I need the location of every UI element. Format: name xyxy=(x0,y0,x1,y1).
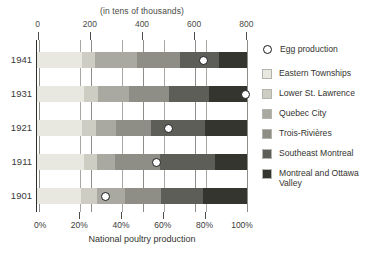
chart-legend: Egg production Eastern TownshipsLower St… xyxy=(262,44,380,198)
legend-item: Trois-Rivières xyxy=(262,128,380,139)
bar-row xyxy=(37,154,247,170)
egg-production-marker xyxy=(241,90,250,99)
bar-segment xyxy=(84,86,98,102)
stacked-bar xyxy=(37,188,247,204)
bar-segment xyxy=(82,120,96,136)
bar-segment xyxy=(37,52,82,68)
bar-segment xyxy=(151,120,205,136)
gridline-absolute xyxy=(247,40,248,212)
legend-label: Lower St. Lawrence xyxy=(279,88,355,99)
bottom-axis-tick-label: 20% xyxy=(71,220,88,230)
legend-label: Southeast Montreal xyxy=(279,148,354,159)
bottom-axis-tick xyxy=(121,212,122,219)
legend-item: Southeast Montreal xyxy=(262,148,380,159)
bar-segment xyxy=(37,86,84,102)
stacked-bar xyxy=(37,86,247,102)
egg-production-marker xyxy=(164,124,173,133)
bar-segment xyxy=(37,120,82,136)
bar-row xyxy=(37,188,247,204)
legend-item: Eastern Townships xyxy=(262,68,380,79)
bar-segment xyxy=(98,86,130,102)
chart-container: (in tens of thousands) 0200400600800 0%2… xyxy=(0,0,383,268)
bar-segment xyxy=(161,188,203,204)
egg-production-marker-icon xyxy=(263,45,272,54)
legend-swatch xyxy=(262,129,272,139)
bar-segment xyxy=(169,86,209,102)
legend-label: Quebec City xyxy=(279,108,326,119)
legend-label: Eastern Townships xyxy=(279,68,351,79)
bar-segment xyxy=(219,52,247,68)
bar-segment xyxy=(205,120,247,136)
year-label: 1901 xyxy=(0,188,32,204)
bar-segment xyxy=(160,154,216,170)
legend-swatch xyxy=(262,109,272,119)
bar-segment xyxy=(97,154,115,170)
bottom-axis-tick-label: 0% xyxy=(34,220,46,230)
bottom-axis-tick-label: 100% xyxy=(231,220,253,230)
bar-segment xyxy=(215,154,247,170)
bar-segment xyxy=(203,188,247,204)
legend-swatch xyxy=(262,89,272,99)
legend-item: Quebec City xyxy=(262,108,380,119)
year-label: 1911 xyxy=(0,154,32,170)
top-axis-tick xyxy=(90,32,91,40)
egg-production-marker xyxy=(101,192,110,201)
bar-segment xyxy=(125,188,161,204)
bar-segment xyxy=(81,188,97,204)
top-axis: 0200400600800 xyxy=(36,32,248,40)
bar-segment xyxy=(84,154,97,170)
legend-item: Montreal and Ottawa Valley xyxy=(262,168,380,189)
bottom-axis: 0%20%40%60%80%100% xyxy=(36,212,248,220)
top-axis-tick xyxy=(38,32,39,40)
bottom-axis-tick xyxy=(205,212,206,219)
egg-production-marker xyxy=(152,158,161,167)
plot-area xyxy=(36,40,248,212)
bottom-axis-tick-label: 40% xyxy=(113,220,130,230)
bottom-axis-tick-label: 80% xyxy=(196,220,213,230)
bar-segment xyxy=(95,52,137,68)
top-axis-tick xyxy=(142,32,143,40)
top-axis-tick-label: 600 xyxy=(187,19,201,29)
egg-production-marker xyxy=(199,56,208,65)
x-axis-label: National poultry production xyxy=(36,234,248,244)
bar-segment xyxy=(37,154,84,170)
stacked-bar xyxy=(37,52,247,68)
legend-swatch xyxy=(262,69,272,79)
legend-label: Montreal and Ottawa Valley xyxy=(279,168,380,189)
top-axis-tick xyxy=(246,32,247,40)
bar-segment xyxy=(82,52,95,68)
bottom-axis-tick xyxy=(79,212,80,219)
chart-units-title: (in tens of thousands) xyxy=(36,6,248,16)
top-axis-tick-label: 400 xyxy=(135,19,149,29)
year-label: 1941 xyxy=(0,52,32,68)
legend-item: Lower St. Lawrence xyxy=(262,88,380,99)
top-axis-tick-label: 200 xyxy=(83,19,97,29)
legend-label-egg-production: Egg production xyxy=(280,44,338,55)
bottom-axis-tick-label: 60% xyxy=(154,220,171,230)
stacked-bar xyxy=(37,120,247,136)
legend-label: Trois-Rivières xyxy=(279,128,332,139)
top-axis-tick-label: 0 xyxy=(35,19,40,29)
legend-item-egg-production: Egg production xyxy=(262,44,380,55)
legend-swatch xyxy=(262,169,272,179)
bar-row xyxy=(37,52,247,68)
bar-row xyxy=(37,120,247,136)
stacked-bar xyxy=(37,154,247,170)
year-label: 1931 xyxy=(0,86,32,102)
bar-segment xyxy=(37,188,81,204)
bar-segment xyxy=(137,52,180,68)
legend-swatch xyxy=(262,149,272,159)
year-label: 1921 xyxy=(0,120,32,136)
bottom-axis-tick xyxy=(163,212,164,219)
top-axis-tick xyxy=(194,32,195,40)
bar-segment xyxy=(129,86,169,102)
top-axis-tick-label: 800 xyxy=(239,19,253,29)
bar-segment xyxy=(96,120,116,136)
bar-segment xyxy=(116,120,152,136)
bar-row xyxy=(37,86,247,102)
